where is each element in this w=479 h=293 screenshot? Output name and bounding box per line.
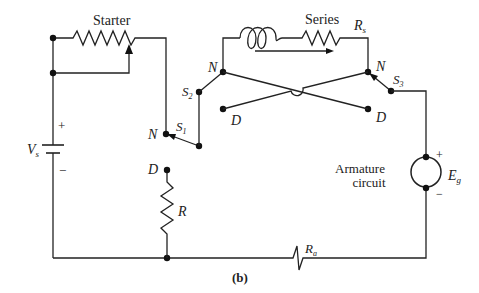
- current-direction-arrow-icon: [326, 48, 334, 54]
- supply-plus-label: +: [58, 118, 65, 133]
- ra-label: Ra: [304, 241, 317, 258]
- d-r-label: D: [147, 162, 158, 177]
- d-left-label: D: [230, 113, 241, 128]
- dc-motor-circuit-diagram: Starter Series Rs + − Vs N S1 S2 N N S3 …: [0, 0, 479, 293]
- armature-label-line2: circuit: [352, 175, 386, 190]
- rs-label: Rs: [353, 18, 367, 35]
- d-right-label: D: [375, 110, 386, 125]
- r-label: R: [177, 204, 187, 219]
- series-label: Series: [305, 12, 339, 27]
- supply-battery: [42, 145, 64, 258]
- supply-minus-label: −: [59, 163, 66, 178]
- n-left-label: N: [207, 60, 218, 75]
- s2-label: S2: [182, 84, 193, 101]
- armature-label-line1: Armature: [335, 161, 385, 176]
- series-field: [223, 28, 368, 73]
- figure-caption: (b): [232, 270, 248, 285]
- starter-label: Starter: [93, 13, 131, 28]
- s3-label: S3: [393, 72, 404, 89]
- switch-s1: [163, 92, 202, 149]
- bottom-wire: [53, 188, 426, 270]
- s1-label: S1: [176, 119, 187, 136]
- n-s1-label: N: [147, 127, 158, 142]
- emf-plus-label: +: [436, 148, 443, 162]
- switch-s2: [196, 72, 223, 95]
- eg-label: Eg: [447, 168, 462, 185]
- wiper-arrow-icon: [125, 44, 133, 54]
- braking-resistor: [161, 167, 173, 258]
- vs-label: Vs: [27, 142, 40, 159]
- emf-minus-label: −: [436, 187, 443, 201]
- reversing-crossover: [220, 69, 371, 112]
- n-right-label: N: [375, 59, 386, 74]
